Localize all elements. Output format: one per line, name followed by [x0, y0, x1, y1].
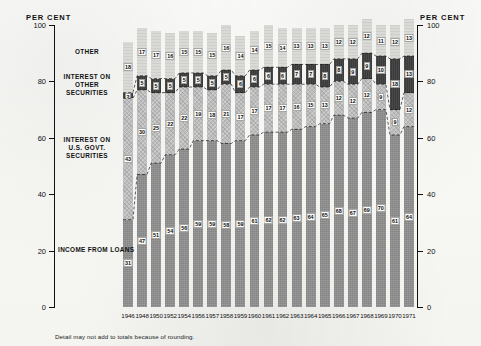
- series-label-other: OTHER: [58, 48, 116, 56]
- series-label-income-from-loans: INCOME FROM LOANS: [58, 246, 116, 254]
- series-label-line-2: OTHER: [75, 81, 99, 88]
- series-label-interest-other-securities: INTEREST ON OTHER SECURITIES: [57, 73, 117, 97]
- series-label-line-2: U.S. GOVT.: [69, 144, 106, 151]
- series-boundary-interest-other-securities: [123, 53, 414, 92]
- series-label-line-1: INTEREST ON: [64, 73, 111, 80]
- series-boundary-interest-us-govt: [123, 79, 414, 110]
- x-category-label: 1971: [400, 312, 418, 319]
- series-boundary-income-from-loans: [123, 110, 414, 220]
- series-label-line-1: INTEREST ON: [64, 136, 111, 143]
- series-label-line-3: SECURITIES: [66, 152, 108, 159]
- stacked-bar-chart: PER CENT PER CENT 020406080100 020406080…: [0, 0, 481, 346]
- chart-footnote: Detail may not add to totals because of …: [55, 333, 194, 340]
- series-label-interest-us-govt: INTEREST ON U.S. GOVT. SECURITIES: [57, 136, 117, 160]
- series-label-line-3: SECURITIES: [66, 89, 108, 96]
